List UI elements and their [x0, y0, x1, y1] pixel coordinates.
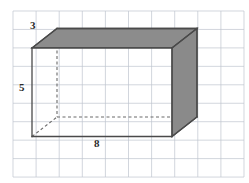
rectangular-prism-diagram [0, 0, 249, 183]
figure-canvas: 3 5 8 [0, 0, 249, 183]
dimension-label-height: 5 [19, 82, 25, 93]
top-face [32, 29, 197, 48]
dimension-label-width: 8 [94, 138, 100, 149]
dimension-label-depth: 3 [30, 20, 36, 31]
